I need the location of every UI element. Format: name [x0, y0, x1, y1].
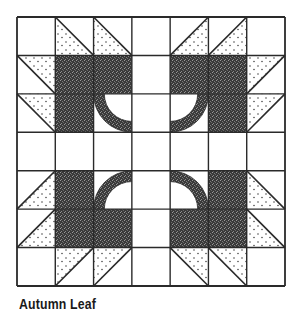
- quilt-cell: [170, 209, 208, 247]
- quilt-cell: [208, 209, 246, 247]
- pattern-title: Autumn Leaf: [19, 295, 96, 312]
- patch-background: [94, 132, 132, 170]
- patch-background: [17, 17, 55, 55]
- quilt-cell: [247, 94, 285, 132]
- patch-background: [17, 132, 55, 170]
- patch-background: [132, 94, 170, 132]
- patch-background: [132, 17, 170, 55]
- patch-background: [247, 248, 285, 286]
- quilt-cell: [247, 248, 285, 286]
- quilt-cell: [17, 209, 55, 247]
- quilt-cell: [208, 248, 246, 286]
- quilt-cells: [17, 17, 285, 286]
- dark-patch: [208, 55, 246, 93]
- patch-background: [247, 17, 285, 55]
- quilt-cell: [17, 55, 55, 93]
- dark-patch: [170, 55, 208, 93]
- quilt-cell: [55, 17, 93, 55]
- quilt-cell: [94, 132, 132, 170]
- quilt-cell: [132, 248, 170, 286]
- quilt-cell: [94, 248, 132, 286]
- quilt-cell: [55, 94, 93, 132]
- quilt-cell: [132, 17, 170, 55]
- dark-patch: [55, 94, 93, 132]
- patch-background: [17, 248, 55, 286]
- quilt-cell: [208, 94, 246, 132]
- quilt-cell: [17, 17, 55, 55]
- quilt-cell: [247, 209, 285, 247]
- quilt-cell: [170, 55, 208, 93]
- quilt-cell: [132, 171, 170, 209]
- quilt-cell: [17, 132, 55, 170]
- patch-background: [55, 132, 93, 170]
- dark-patch: [55, 55, 93, 93]
- quilt-cell: [17, 171, 55, 209]
- dark-patch: [208, 171, 246, 209]
- patch-background: [208, 132, 246, 170]
- quilt-cell: [170, 132, 208, 170]
- dark-patch: [208, 94, 246, 132]
- quilt-cell: [55, 209, 93, 247]
- patch-background: [132, 209, 170, 247]
- quilt-cell: [132, 55, 170, 93]
- quilt-cell: [55, 132, 93, 170]
- quilt-cell: [55, 171, 93, 209]
- quilt-cell: [132, 209, 170, 247]
- dark-patch: [170, 209, 208, 247]
- dark-patch: [55, 171, 93, 209]
- quilt-cell: [208, 132, 246, 170]
- quilt-cell: [94, 209, 132, 247]
- quilt-cell: [55, 248, 93, 286]
- patch-background: [247, 132, 285, 170]
- quilt-cell: [208, 55, 246, 93]
- quilt-cell: [208, 17, 246, 55]
- dark-patch: [94, 209, 132, 247]
- quilt-cell: [17, 94, 55, 132]
- dark-patch: [94, 55, 132, 93]
- quilt-cell: [247, 17, 285, 55]
- quilt-cell: [132, 132, 170, 170]
- quilt-cell: [208, 171, 246, 209]
- quilt-cell: [94, 55, 132, 93]
- patch-background: [132, 55, 170, 93]
- quilt-cell: [132, 94, 170, 132]
- patch-background: [132, 248, 170, 286]
- autumn-leaf-quilt-block: [0, 0, 302, 314]
- quilt-cell: [17, 248, 55, 286]
- quilt-cell: [170, 17, 208, 55]
- quilt-cell: [170, 248, 208, 286]
- patch-background: [132, 132, 170, 170]
- dark-patch: [55, 209, 93, 247]
- quilt-cell: [247, 132, 285, 170]
- quilt-cell: [94, 17, 132, 55]
- patch-background: [170, 132, 208, 170]
- quilt-cell: [55, 55, 93, 93]
- dark-patch: [208, 209, 246, 247]
- quilt-cell: [247, 171, 285, 209]
- patch-background: [132, 171, 170, 209]
- quilt-cell: [247, 55, 285, 93]
